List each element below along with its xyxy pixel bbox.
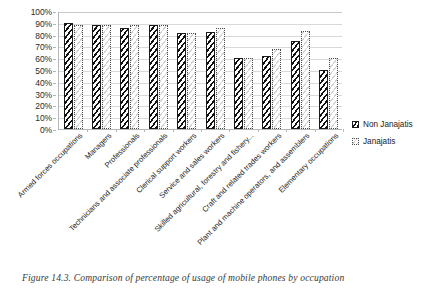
y-axis-tick-label: 30% xyxy=(35,90,52,100)
y-axis-tick xyxy=(53,118,56,119)
y-axis-tick-label: 10% xyxy=(35,113,52,123)
y-axis-tick xyxy=(53,130,56,131)
figure-caption: Figure 14.3. Comparison of percentage of… xyxy=(22,272,414,283)
bar-non-janajatis[interactable] xyxy=(291,41,300,130)
legend-item-label: Janajatis xyxy=(363,137,395,146)
figure-container: 0%10%20%30%40%50%60%70%80%90%100% Armed … xyxy=(0,0,434,288)
y-axis-tick xyxy=(53,12,56,13)
y-axis-labels: 0%10%20%30%40%50%60%70%80%90%100% xyxy=(0,12,56,130)
y-axis-tick xyxy=(53,59,56,60)
x-axis-category-label: Elementary occupations xyxy=(276,131,340,195)
dark-diagonal-hatch-swatch xyxy=(352,121,359,128)
light-dotted-hatch-swatch xyxy=(352,138,359,145)
bar-non-janajatis[interactable] xyxy=(120,28,129,129)
y-axis-tick-label: 80% xyxy=(35,31,52,41)
legend-item[interactable]: Janajatis xyxy=(352,136,434,146)
bar-non-janajatis[interactable] xyxy=(92,25,101,129)
bar-group xyxy=(229,12,257,129)
bar-group xyxy=(201,12,229,129)
bar-janajatis[interactable] xyxy=(301,31,310,129)
y-axis-tick xyxy=(53,95,56,96)
y-axis-tick-label: 100% xyxy=(31,7,52,17)
bar-group xyxy=(173,12,201,129)
y-axis-tick xyxy=(53,47,56,48)
legend-item[interactable]: Non Janajatis xyxy=(352,119,434,129)
plot-frame xyxy=(58,12,342,130)
bar-group xyxy=(59,12,87,129)
plot-area xyxy=(58,12,342,130)
bar-non-janajatis[interactable] xyxy=(206,32,215,129)
y-axis-tick-label: 90% xyxy=(35,19,52,29)
x-axis-labels: Armed forces occupationsManagersProfessi… xyxy=(58,131,358,256)
y-axis-tick-label: 40% xyxy=(35,78,52,88)
bar-janajatis[interactable] xyxy=(74,25,83,129)
bar-janajatis[interactable] xyxy=(159,25,168,129)
bar-non-janajatis[interactable] xyxy=(319,70,328,129)
bar-non-janajatis[interactable] xyxy=(177,33,186,129)
legend-item-label: Non Janajatis xyxy=(363,120,413,129)
bar-group xyxy=(315,12,343,129)
bar-group xyxy=(87,12,115,129)
bar-janajatis[interactable] xyxy=(216,28,225,129)
y-axis-tick xyxy=(53,83,56,84)
bar-non-janajatis[interactable] xyxy=(234,58,243,129)
bar-series-container xyxy=(59,12,342,129)
bar-group xyxy=(286,12,314,129)
bar-janajatis[interactable] xyxy=(130,25,139,129)
bar-janajatis[interactable] xyxy=(272,49,281,129)
y-axis-tick xyxy=(53,71,56,72)
x-axis-category-label: Armed forces occupations xyxy=(16,131,84,199)
y-axis-tick-label: 20% xyxy=(35,101,52,111)
bar-janajatis[interactable] xyxy=(329,58,338,129)
y-axis-tick xyxy=(53,36,56,37)
bar-chart: 0%10%20%30%40%50%60%70%80%90%100% Armed … xyxy=(0,0,434,258)
bar-janajatis[interactable] xyxy=(244,58,253,129)
y-axis-tick-label: 70% xyxy=(35,42,52,52)
chart-legend: Non JanajatisJanajatis xyxy=(352,119,434,153)
bar-group xyxy=(144,12,172,129)
bar-non-janajatis[interactable] xyxy=(64,23,73,129)
bar-non-janajatis[interactable] xyxy=(149,25,158,129)
y-axis-tick xyxy=(53,24,56,25)
bar-group xyxy=(116,12,144,129)
bar-group xyxy=(258,12,286,129)
bar-janajatis[interactable] xyxy=(102,25,111,129)
bar-janajatis[interactable] xyxy=(187,33,196,129)
y-axis-tick-label: 50% xyxy=(35,66,52,76)
y-axis-tick-label: 0% xyxy=(40,125,52,135)
y-axis-tick xyxy=(53,106,56,107)
y-axis-tick-label: 60% xyxy=(35,54,52,64)
bar-non-janajatis[interactable] xyxy=(262,56,271,129)
